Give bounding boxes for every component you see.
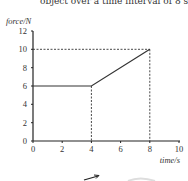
x-axis-title: time/s xyxy=(160,155,181,165)
svg-text:6: 6 xyxy=(118,144,122,154)
svg-text:8: 8 xyxy=(148,144,152,154)
svg-text:8: 8 xyxy=(23,63,27,73)
force-line xyxy=(33,49,150,86)
svg-text:12: 12 xyxy=(19,26,28,36)
y-tick-labels: 0 2 4 6 8 10 12 xyxy=(19,26,28,146)
svg-text:0: 0 xyxy=(31,144,35,154)
svg-text:2: 2 xyxy=(60,144,64,154)
x-tick-labels: 0 2 4 6 8 10 xyxy=(31,144,183,154)
svg-text:6: 6 xyxy=(23,81,27,91)
force-time-chart: 0 2 4 6 8 10 12 0 2 4 6 8 10 force/N tim… xyxy=(0,0,188,181)
dashed-guides xyxy=(33,49,150,141)
svg-text:10: 10 xyxy=(19,44,28,54)
cropped-arrow-fragment xyxy=(84,175,155,181)
svg-text:2: 2 xyxy=(23,118,27,128)
svg-text:4: 4 xyxy=(89,144,94,154)
y-axis-title: force/N xyxy=(6,16,33,26)
svg-text:0: 0 xyxy=(23,136,27,146)
svg-text:4: 4 xyxy=(23,99,28,109)
svg-text:10: 10 xyxy=(175,144,184,154)
